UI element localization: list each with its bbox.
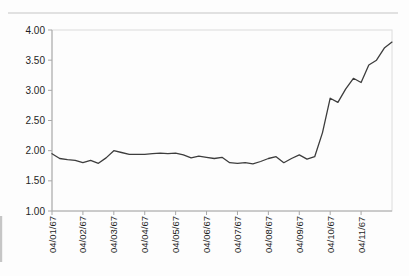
line-chart-figure: 4.003.503.002.502.001.501.0004/01/6704/0… <box>0 0 409 276</box>
x-axis-tick-label: 04/03/67 <box>108 216 119 253</box>
scan-artifact-left-mark <box>0 216 2 262</box>
x-axis-tick-label: 04/01/67 <box>47 216 58 253</box>
line-chart: 4.003.503.002.502.001.501.0004/01/6704/0… <box>0 0 409 276</box>
y-axis-tick-label: 2.50 <box>26 115 46 126</box>
y-axis-tick-label: 2.00 <box>26 145 46 156</box>
x-axis-tick-label: 04/07/67 <box>232 216 243 253</box>
y-axis-tick-label: 1.00 <box>26 206 46 217</box>
y-axis-tick-label: 3.00 <box>26 85 46 96</box>
x-axis-tick-label: 04/06/67 <box>201 216 212 253</box>
x-axis-tick-label: 04/11/67 <box>356 217 367 253</box>
x-axis-tick-label: 04/02/67 <box>77 216 88 253</box>
x-axis-tick-label: 04/08/67 <box>263 216 274 253</box>
y-axis-tick-label: 3.50 <box>26 55 46 66</box>
x-axis-tick-label: 04/10/67 <box>325 216 336 253</box>
x-axis-tick-label: 04/04/67 <box>139 216 150 253</box>
y-axis-tick-label: 1.50 <box>26 175 46 186</box>
x-axis-tick-label: 04/05/67 <box>170 216 181 253</box>
x-axis-tick-label: 04/09/67 <box>294 216 305 253</box>
y-axis-tick-label: 4.00 <box>26 25 46 36</box>
